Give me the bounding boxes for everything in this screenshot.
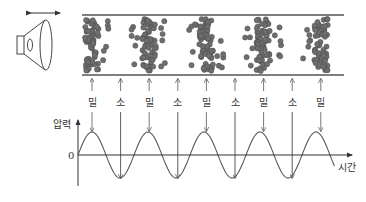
air-particle [129, 33, 134, 38]
air-particle [315, 42, 320, 47]
air-particle [199, 17, 204, 22]
compression-marker: 밀 [88, 79, 97, 131]
compression-marker: 밀 [202, 79, 211, 131]
air-particle [105, 19, 110, 24]
air-tube [82, 15, 344, 75]
air-particle [101, 48, 106, 53]
compression-marker: 밀 [259, 79, 268, 131]
air-particle [263, 23, 268, 28]
air-particle [277, 25, 282, 30]
air-particle [322, 31, 327, 36]
x-axis-label: 시간 [338, 162, 356, 173]
rarefaction-marker: 소 [231, 79, 240, 178]
air-particle [141, 25, 146, 30]
air-particle [278, 39, 283, 44]
air-particle [159, 25, 164, 30]
speaker-icon [17, 20, 52, 70]
air-particle [321, 64, 326, 69]
air-particle [263, 29, 268, 34]
air-particle [254, 26, 259, 31]
air-particle [265, 62, 270, 67]
air-particles [83, 16, 331, 73]
air-particle [94, 24, 99, 29]
air-particle [206, 53, 211, 58]
rarefaction-marker: 소 [173, 79, 182, 178]
air-particle [144, 38, 149, 43]
sound-wave-diagram: 밀소밀소밀소밀소밀 압력 0 시간 [0, 0, 366, 202]
air-particle [321, 53, 326, 58]
air-particle [209, 68, 214, 73]
air-particle [199, 33, 204, 38]
air-particle [106, 26, 111, 31]
air-particle [263, 17, 268, 22]
air-particle [205, 24, 210, 29]
air-particle [245, 26, 250, 31]
air-particle [254, 18, 259, 23]
compression-label: 밀 [145, 97, 154, 108]
air-particle [132, 62, 137, 67]
air-particle [190, 49, 195, 54]
air-particle [160, 31, 165, 36]
air-particle [92, 53, 97, 58]
air-particle [152, 54, 157, 59]
air-particle [306, 44, 311, 49]
air-particle [215, 54, 220, 59]
air-particle [221, 52, 226, 57]
air-particle [144, 64, 149, 69]
air-particle [146, 45, 151, 50]
air-particle [278, 54, 283, 59]
air-particle [325, 68, 330, 73]
air-particle [323, 58, 328, 63]
air-particle [189, 63, 194, 68]
air-particle [257, 54, 262, 59]
air-particle [313, 27, 318, 32]
air-particle [305, 27, 310, 32]
air-particle [206, 36, 211, 41]
air-particle [248, 63, 253, 68]
air-particle [219, 65, 224, 70]
air-particle [160, 38, 165, 43]
air-particle [247, 35, 252, 40]
region-markers: 밀소밀소밀소밀소밀 [88, 79, 326, 178]
air-particle [197, 42, 202, 47]
rarefaction-marker: 소 [116, 79, 125, 178]
compression-marker: 밀 [316, 79, 325, 131]
air-particle [307, 32, 312, 37]
air-particle [152, 46, 157, 51]
air-particle [324, 44, 329, 49]
air-particle [272, 33, 277, 38]
air-particle [250, 46, 255, 51]
air-particle [91, 41, 96, 46]
zero-label: 0 [68, 150, 74, 161]
air-particle [86, 29, 91, 34]
air-particle [315, 19, 320, 24]
air-particle [258, 68, 263, 73]
y-axis-label: 압력 [53, 118, 71, 130]
air-particle [264, 53, 269, 58]
compression-marker: 밀 [145, 79, 154, 131]
air-particle [325, 17, 330, 22]
compression-label: 밀 [202, 97, 211, 108]
air-particle [133, 43, 138, 48]
compression-label: 밀 [88, 97, 97, 108]
air-particle [187, 27, 192, 32]
air-particle [307, 39, 312, 44]
air-particle [135, 35, 140, 40]
air-particle [90, 60, 95, 65]
compression-label: 밀 [316, 97, 325, 108]
air-particle [84, 68, 89, 73]
air-particle [210, 62, 215, 67]
air-particle [244, 55, 249, 60]
air-particle [313, 50, 318, 55]
air-particle [162, 19, 167, 24]
air-particle [243, 35, 248, 40]
air-particle [218, 38, 223, 43]
rarefaction-label: 소 [116, 97, 125, 108]
air-particle [83, 24, 88, 29]
rarefaction-marker: 소 [288, 79, 297, 178]
pressure-graph: 압력 0 시간 [53, 118, 356, 186]
air-particle [101, 58, 106, 63]
air-particle [95, 30, 100, 35]
air-particle [152, 22, 157, 27]
compression-label: 밀 [259, 97, 268, 108]
